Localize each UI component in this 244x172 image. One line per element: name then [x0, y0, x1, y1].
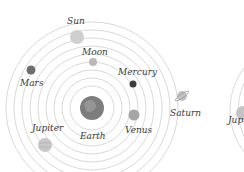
earth-icon [80, 96, 104, 120]
mercury-icon [130, 81, 137, 88]
venus-icon [129, 110, 140, 121]
earth-label: Earth [79, 131, 106, 141]
jupiter-label: Jupiter [30, 123, 64, 133]
moon-icon [89, 58, 97, 66]
secondary-orbit-rings [230, 40, 244, 172]
mars-label: Mars [19, 78, 44, 88]
mars-icon [27, 66, 36, 75]
saturn-label: Saturn [170, 108, 201, 118]
body-labels: EarthMoonMercuryVenusSunMarsJupiterSatur… [19, 16, 244, 141]
secondary-jupiter-label: Jupiter [226, 115, 244, 125]
geocentric-diagram: EarthMoonMercuryVenusSunMarsJupiterSatur… [0, 0, 244, 172]
sun-icon [70, 30, 84, 44]
mercury-label: Mercury [117, 67, 158, 77]
sun-label: Sun [67, 16, 85, 26]
orbit-ring [230, 40, 244, 172]
jupiter-icon [38, 138, 52, 152]
venus-label: Venus [125, 125, 153, 135]
moon-label: Moon [81, 47, 108, 57]
